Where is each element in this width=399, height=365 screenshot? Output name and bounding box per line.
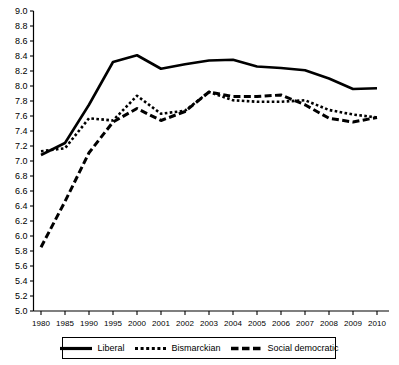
y-axis-tick-label: 6.2 xyxy=(15,216,28,226)
y-axis-tick-label: 6.4 xyxy=(15,201,28,211)
x-axis-tick-label: 2005 xyxy=(248,319,266,328)
legend-item-bismarckian: Bismarckian xyxy=(134,344,221,353)
y-axis-tick-label: 8.0 xyxy=(15,81,28,91)
x-axis-tick-label: 2008 xyxy=(320,319,338,328)
x-axis-tick-label: 2007 xyxy=(296,319,314,328)
x-axis-tick-label: 1980 xyxy=(32,319,50,328)
y-axis-tick-label: 5.0 xyxy=(15,306,28,316)
y-axis-tick-label: 8.6 xyxy=(15,36,28,46)
x-axis-tick-label: 2000 xyxy=(128,319,146,328)
y-axis: 9.08.88.68.48.28.07.87.67.47.27.06.86.66… xyxy=(15,6,34,316)
x-axis-tick-label: 2006 xyxy=(272,319,290,328)
x-axis-tick-label: 2003 xyxy=(200,319,218,328)
x-axis-tick-label: 1995 xyxy=(104,319,122,328)
plot-area: 9.08.88.68.48.28.07.87.67.47.27.06.86.66… xyxy=(0,0,399,335)
legend-label-social-democratic: Social democratic xyxy=(268,344,339,353)
y-axis-tick-label: 6.6 xyxy=(15,186,28,196)
x-axis-tick-label: 2010 xyxy=(368,319,386,328)
y-axis-tick-label: 7.8 xyxy=(15,96,28,106)
y-axis-tick-label: 8.2 xyxy=(15,66,28,76)
y-axis-tick-label: 7.6 xyxy=(15,111,28,121)
x-axis-tick-label: 2004 xyxy=(224,319,242,328)
solid-line-swatch xyxy=(59,344,93,353)
y-axis-tick-label: 6.8 xyxy=(15,171,28,181)
legend-item-liberal: Liberal xyxy=(59,344,124,353)
chart-legend: Liberal Bismarckian Social democratic xyxy=(62,337,336,359)
x-axis-tick-label: 2001 xyxy=(152,319,170,328)
y-axis-tick-label: 7.2 xyxy=(15,141,28,151)
x-axis-tick-label: 2009 xyxy=(344,319,362,328)
x-axis: 1980198519901995200020012002200320042005… xyxy=(32,311,389,328)
line-chart: 9.08.88.68.48.28.07.87.67.47.27.06.86.66… xyxy=(0,0,399,365)
x-axis-tick-label: 2002 xyxy=(176,319,194,328)
x-axis-tick-label: 1990 xyxy=(80,319,98,328)
legend-item-social-democratic: Social democratic xyxy=(230,344,339,353)
y-axis-tick-label: 5.2 xyxy=(15,291,28,301)
y-axis-tick-label: 5.4 xyxy=(15,276,28,286)
dotted-line-swatch xyxy=(134,344,168,353)
data-series-group xyxy=(41,55,377,247)
x-axis-tick-label: 1985 xyxy=(56,319,74,328)
series-line-social-democratic xyxy=(41,92,377,247)
y-axis-tick-label: 7.4 xyxy=(15,126,28,136)
y-axis-tick-label: 6.0 xyxy=(15,231,28,241)
y-axis-tick-label: 5.8 xyxy=(15,246,28,256)
series-line-liberal xyxy=(41,55,377,155)
y-axis-tick-label: 8.4 xyxy=(15,51,28,61)
dashed-line-swatch xyxy=(230,344,264,353)
legend-label-bismarckian: Bismarckian xyxy=(172,344,221,353)
legend-label-liberal: Liberal xyxy=(97,344,124,353)
y-axis-tick-label: 8.8 xyxy=(15,21,28,31)
y-axis-tick-label: 7.0 xyxy=(15,156,28,166)
y-axis-tick-label: 9.0 xyxy=(15,6,28,16)
y-axis-tick-label: 5.6 xyxy=(15,261,28,271)
